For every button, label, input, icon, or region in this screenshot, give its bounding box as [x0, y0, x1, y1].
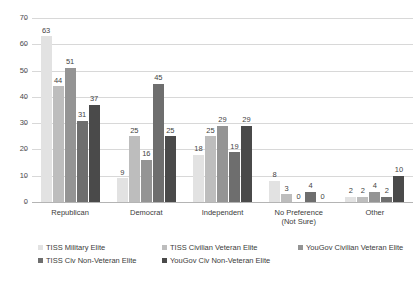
y-axis-tick-mark — [25, 18, 28, 19]
bar-slot: 0 — [317, 18, 328, 202]
x-axis-category-sublabel: (Not Sure) — [261, 217, 337, 226]
legend-swatch — [38, 258, 43, 263]
bar-slot: 2 — [357, 18, 368, 202]
bar[interactable] — [217, 126, 228, 202]
bar-slot: 10 — [393, 18, 404, 202]
legend-swatch — [298, 245, 303, 250]
bar-slot: 44 — [53, 18, 64, 202]
bar[interactable] — [129, 136, 140, 202]
plot-area: 6344513137925164525182529192983040224210 — [32, 18, 413, 202]
bar[interactable] — [65, 68, 76, 202]
legend-label: YouGov Civilian Veteran Elite — [306, 243, 403, 252]
bar-slot: 0 — [293, 18, 304, 202]
bar-group-bars: 6344513137 — [41, 18, 100, 202]
bar[interactable] — [205, 136, 216, 202]
legend-label: TISS Military Elite — [46, 243, 105, 252]
bar-group-bars: 83040 — [269, 18, 328, 202]
bar-value-label: 10 — [388, 166, 409, 174]
y-axis-tick-mark — [25, 176, 28, 177]
legend-label: TISS Civilian Veteran Elite — [170, 243, 258, 252]
bar-slot: 45 — [153, 18, 164, 202]
legend-label: TISS Civ Non-Veteran Elite — [46, 256, 136, 265]
bar[interactable] — [241, 126, 252, 202]
bar[interactable] — [165, 136, 176, 202]
bar[interactable] — [117, 178, 128, 202]
bar-slot: 9 — [117, 18, 128, 202]
bar-group-bars: 1825291929 — [193, 18, 252, 202]
bar-value-label: 29 — [236, 116, 257, 124]
gridline — [32, 202, 413, 203]
bar[interactable] — [345, 197, 356, 202]
bar[interactable] — [89, 105, 100, 202]
chart-legend: TISS Military EliteTISS Civilian Veteran… — [38, 243, 413, 269]
bar-slot: 37 — [89, 18, 100, 202]
bar-value-label: 25 — [160, 127, 181, 135]
bar-slot: 4 — [369, 18, 380, 202]
y-axis-tick-mark — [25, 123, 28, 124]
bar-slot: 25 — [165, 18, 176, 202]
bar-slot: 25 — [129, 18, 140, 202]
x-axis-category-label: No Preference(Not Sure) — [261, 208, 337, 226]
bar[interactable] — [153, 84, 164, 202]
legend-item[interactable]: TISS Civilian Veteran Elite — [162, 243, 258, 252]
legend-item[interactable]: YouGov Civilian Veteran Elite — [298, 243, 403, 252]
legend-swatch — [162, 245, 167, 250]
bar-slot: 8 — [269, 18, 280, 202]
bar-group: 6344513137 — [41, 18, 100, 202]
bar-slot: 4 — [305, 18, 316, 202]
bar-group: 1825291929 — [193, 18, 252, 202]
bar-group: 224210 — [345, 18, 404, 202]
bar[interactable] — [141, 160, 152, 202]
legend-item[interactable]: TISS Military Elite — [38, 243, 105, 252]
legend-swatch — [38, 245, 43, 250]
bar[interactable] — [393, 176, 404, 202]
x-axis-category-label: Independent — [184, 208, 260, 217]
bar-slot: 31 — [77, 18, 88, 202]
bar-value-label: 37 — [84, 95, 105, 103]
bar-slot: 29 — [217, 18, 228, 202]
legend-label: YouGov Civ Non-Veteran Elite — [170, 256, 270, 265]
legend-row: TISS Military EliteTISS Civilian Veteran… — [38, 243, 413, 256]
x-axis-category-label: Other — [337, 208, 413, 217]
legend-item[interactable]: YouGov Civ Non-Veteran Elite — [162, 256, 270, 265]
bar[interactable] — [77, 121, 88, 202]
legend-swatch — [162, 258, 167, 263]
bar-value-label: 0 — [312, 193, 333, 201]
bar-group: 925164525 — [117, 18, 176, 202]
bar-slot: 19 — [229, 18, 240, 202]
bar-slot: 2 — [381, 18, 392, 202]
bar-group-bars: 224210 — [345, 18, 404, 202]
legend-row: TISS Civ Non-Veteran EliteYouGov Civ Non… — [38, 256, 413, 269]
bar-group-bars: 925164525 — [117, 18, 176, 202]
bar-slot: 29 — [241, 18, 252, 202]
y-axis-tick-mark — [25, 44, 28, 45]
bar[interactable] — [193, 155, 204, 202]
bar-slot: 16 — [141, 18, 152, 202]
bar-group: 83040 — [269, 18, 328, 202]
bar-slot: 63 — [41, 18, 52, 202]
y-axis-tick-mark — [25, 149, 28, 150]
bar[interactable] — [357, 197, 368, 202]
bar-slot: 51 — [65, 18, 76, 202]
bar-slot: 18 — [193, 18, 204, 202]
bar-chart: 706050403020100 634451313792516452518252… — [0, 0, 419, 286]
y-axis-tick-mark — [25, 71, 28, 72]
legend-item[interactable]: TISS Civ Non-Veteran Elite — [38, 256, 136, 265]
y-axis-tick-mark — [25, 97, 28, 98]
x-axis-category-label: Republican — [32, 208, 108, 217]
bar[interactable] — [41, 36, 52, 202]
bar[interactable] — [53, 86, 64, 202]
x-axis-category-label: Democrat — [108, 208, 184, 217]
bar[interactable] — [229, 152, 240, 202]
bar-slot: 25 — [205, 18, 216, 202]
bar-slot: 2 — [345, 18, 356, 202]
bar[interactable] — [381, 197, 392, 202]
y-axis: 706050403020100 — [0, 18, 28, 202]
chart-title — [0, 0, 419, 1]
y-axis-tick-mark — [25, 202, 28, 203]
bar-slot: 3 — [281, 18, 292, 202]
